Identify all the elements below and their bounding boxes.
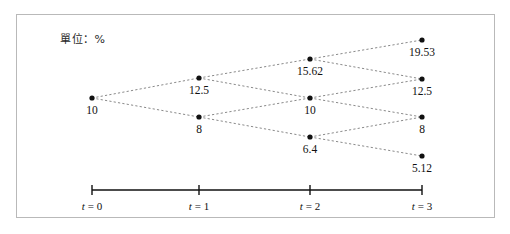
node-value-label: 12.5 <box>189 84 209 96</box>
lattice-node-point <box>419 114 424 119</box>
axis-tick-label: t = 0 <box>82 200 102 212</box>
lattice-edge <box>92 78 199 98</box>
axis-tick-label: t = 2 <box>300 200 320 212</box>
axis-tick-value: = 0 <box>85 200 102 212</box>
lattice-nodes <box>89 37 424 158</box>
lattice-edge <box>310 117 422 137</box>
lattice-edge <box>310 40 422 59</box>
axis-tick-label: t = 1 <box>189 200 209 212</box>
lattice-edge <box>310 137 422 156</box>
node-value-label: 19.53 <box>409 46 435 58</box>
time-axis <box>92 185 422 195</box>
lattice-edge <box>199 78 310 98</box>
node-value-label: 5.12 <box>412 162 432 174</box>
axis-tick-value: = 1 <box>192 200 209 212</box>
lattice-node-point <box>89 95 94 100</box>
lattice-node-point <box>307 134 312 139</box>
figure-root: 單位：% 1012.5815.62106.419.5312.585.12 t =… <box>0 0 510 234</box>
lattice-edge <box>310 79 422 98</box>
lattice-node-point <box>419 76 424 81</box>
lattice-edge <box>199 59 310 78</box>
node-value-label: 15.62 <box>297 65 323 77</box>
lattice-node-point <box>419 37 424 42</box>
lattice-node-point <box>196 114 201 119</box>
lattice-edge <box>310 59 422 79</box>
lattice-edge <box>199 117 310 137</box>
lattice-edge <box>310 98 422 117</box>
node-value-label: 10 <box>86 104 98 116</box>
axis-tick-value: = 2 <box>303 200 320 212</box>
node-value-label: 8 <box>419 123 425 135</box>
lattice-edge <box>199 98 310 117</box>
axis-tick-label: t = 3 <box>412 200 432 212</box>
axis-tick-value: = 3 <box>415 200 432 212</box>
node-value-label: 10 <box>304 104 316 116</box>
lattice-edge <box>92 98 199 117</box>
node-value-label: 6.4 <box>303 143 317 155</box>
lattice-node-point <box>196 75 201 80</box>
lattice-node-point <box>307 95 312 100</box>
lattice-node-point <box>307 56 312 61</box>
node-value-label: 12.5 <box>412 85 432 97</box>
binomial-lattice-plot <box>0 0 510 234</box>
lattice-edges <box>92 40 422 156</box>
lattice-node-point <box>419 153 424 158</box>
node-value-label: 8 <box>196 123 202 135</box>
